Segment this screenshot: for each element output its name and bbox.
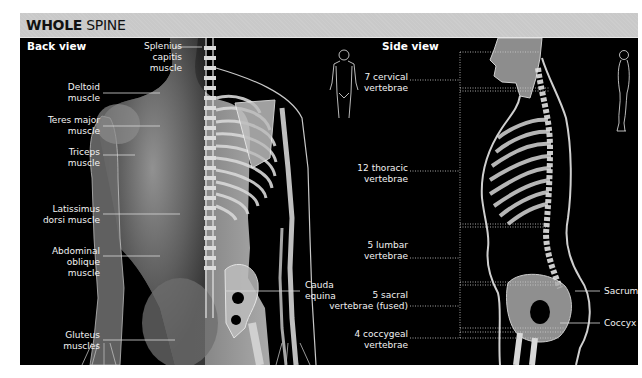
label-deltoid: Deltoid muscle xyxy=(68,82,100,104)
side-view-figure xyxy=(482,38,590,365)
human-front-silhouette-icon xyxy=(330,50,358,118)
label-line: muscle xyxy=(144,63,182,74)
label-line: 5 lumbar xyxy=(364,240,408,251)
label-line: 12 thoracic xyxy=(357,163,408,174)
diagram-frame: WHOLE SPINE xyxy=(20,13,638,365)
label-lumbar-vertebrae: 5 lumbar vertebrae xyxy=(364,240,408,262)
label-line: muscle xyxy=(68,158,100,169)
label-line: Sacrum xyxy=(604,286,638,297)
label-line: vertebrae (fused) xyxy=(329,301,408,312)
human-side-silhouette-icon xyxy=(617,51,629,132)
label-latissimus-dorsi: Latissimus dorsi muscle xyxy=(43,204,100,226)
label-coccyx: Coccyx xyxy=(604,318,636,329)
label-line: Triceps xyxy=(68,147,100,158)
label-line: Gluteus xyxy=(63,330,100,341)
label-sacrum: Sacrum xyxy=(604,286,638,297)
label-line: muscles xyxy=(63,341,100,352)
back-view-heading: Back view xyxy=(27,40,86,52)
title-bold: WHOLE xyxy=(26,17,82,33)
label-line: Coccyx xyxy=(604,318,636,329)
back-view-figure xyxy=(82,38,316,365)
title-bar: WHOLE SPINE xyxy=(20,13,638,38)
label-line: dorsi muscle xyxy=(43,215,100,226)
label-line: capitis xyxy=(144,52,182,63)
label-line: Abdominal xyxy=(52,246,100,257)
label-gluteus: Gluteus muscles xyxy=(63,330,100,352)
label-line: Teres major xyxy=(48,115,100,126)
label-line: muscle xyxy=(68,93,100,104)
label-coccygeal-vertebrae: 4 coccygeal vertebrae xyxy=(354,329,408,351)
label-sacral-vertebrae: 5 sacral vertebrae (fused) xyxy=(329,290,408,312)
label-line: vertebrae xyxy=(364,251,408,262)
label-thoracic-vertebrae: 12 thoracic vertebrae xyxy=(357,163,408,185)
label-line: Latissimus xyxy=(43,204,100,215)
title-rest: SPINE xyxy=(82,17,125,33)
label-line: 5 sacral xyxy=(329,290,408,301)
label-line: 4 coccygeal xyxy=(354,329,408,340)
label-line: 7 cervical xyxy=(364,72,408,83)
label-abdominal-oblique: Abdominal oblique muscle xyxy=(52,246,100,279)
label-line: oblique xyxy=(52,257,100,268)
label-line: vertebrae xyxy=(364,83,408,94)
side-view-heading: Side view xyxy=(382,40,439,52)
anatomy-illustration xyxy=(20,38,638,365)
illustration-canvas: Back view Splenius capitis muscle Deltoi… xyxy=(20,38,638,365)
label-line: vertebrae xyxy=(354,340,408,351)
label-line: Deltoid xyxy=(68,82,100,93)
label-splenius-capitis: Splenius capitis muscle xyxy=(144,41,182,74)
label-triceps: Triceps muscle xyxy=(68,147,100,169)
label-line: muscle xyxy=(48,126,100,137)
label-line: muscle xyxy=(52,268,100,279)
diagram-title: WHOLE SPINE xyxy=(26,17,125,33)
label-line: vertebrae xyxy=(357,174,408,185)
label-cervical-vertebrae: 7 cervical vertebrae xyxy=(364,72,408,94)
label-line: Splenius xyxy=(144,41,182,52)
label-teres-major: Teres major muscle xyxy=(48,115,100,137)
